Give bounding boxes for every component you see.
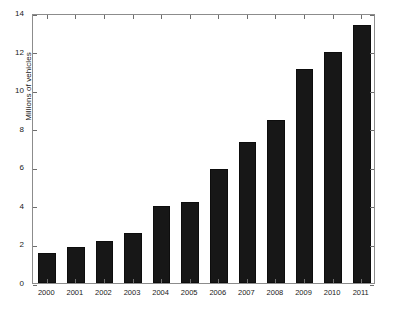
y-tick-0 [33,285,37,286]
y-tick-right-6 [370,169,374,170]
x-tick-top-2008 [275,15,276,19]
y-tick-14 [33,15,37,16]
x-tick-label-2008: 2008 [267,288,284,297]
y-tick-label-4: 4 [20,203,24,211]
y-tick-label-6: 6 [20,164,24,172]
bar-2009 [296,69,314,283]
x-tick-2002 [104,279,105,283]
bar-2007 [239,142,257,283]
x-tick-2001 [75,279,76,283]
bar-2008 [267,120,285,283]
plot-inner [33,15,374,283]
y-tick-12 [33,53,37,54]
y-tick-label-10: 10 [15,87,24,95]
x-tick-2007 [247,279,248,283]
y-axis-tick-labels: 02468101214 [0,14,28,284]
bar-2004 [153,206,171,283]
x-tick-2003 [133,279,134,283]
x-tick-2008 [275,279,276,283]
x-tick-top-2010 [333,15,334,19]
x-tick-top-2009 [304,15,305,19]
x-tick-label-2003: 2003 [124,288,141,297]
y-tick-2 [33,246,37,247]
x-tick-top-2011 [361,15,362,19]
figure-canvas: Millions of vehicles 02468101214 2000200… [0,0,394,309]
x-tick-label-2004: 2004 [152,288,169,297]
x-tick-top-2006 [218,15,219,19]
y-tick-right-0 [370,285,374,286]
x-tick-label-2007: 2007 [238,288,255,297]
x-tick-top-2005 [190,15,191,19]
x-tick-2009 [304,279,305,283]
x-tick-label-2009: 2009 [295,288,312,297]
y-tick-label-14: 14 [15,10,24,18]
x-tick-top-2003 [133,15,134,19]
y-tick-right-8 [370,130,374,131]
x-tick-top-2001 [75,15,76,19]
bar-2011 [353,25,371,283]
x-tick-2010 [333,279,334,283]
y-tick-right-14 [370,15,374,16]
x-tick-label-2002: 2002 [95,288,112,297]
x-axis-tick-labels: 2000200120022003200420052006200720082009… [32,288,375,302]
x-tick-label-2000: 2000 [38,288,55,297]
y-tick-label-12: 12 [15,49,24,57]
x-tick-label-2011: 2011 [353,288,369,297]
bar-2010 [324,52,342,283]
x-tick-2011 [361,279,362,283]
bar-2003 [124,233,142,283]
y-tick-label-8: 8 [20,126,24,134]
y-tick-label-2: 2 [20,241,24,249]
y-tick-6 [33,169,37,170]
y-tick-right-4 [370,207,374,208]
x-tick-top-2007 [247,15,248,19]
y-tick-right-2 [370,246,374,247]
x-tick-label-2005: 2005 [181,288,198,297]
x-tick-top-2002 [104,15,105,19]
x-tick-label-2001: 2001 [67,288,84,297]
bar-2001 [67,247,85,283]
bar-2006 [210,169,228,283]
x-tick-2000 [47,279,48,283]
x-tick-2006 [218,279,219,283]
bar-2002 [96,241,114,283]
y-tick-10 [33,92,37,93]
x-tick-2005 [190,279,191,283]
plot-area [32,14,375,284]
y-tick-8 [33,130,37,131]
bar-2005 [181,202,199,283]
x-tick-top-2004 [161,15,162,19]
x-tick-label-2006: 2006 [209,288,226,297]
x-tick-label-2010: 2010 [324,288,341,297]
y-tick-label-0: 0 [20,280,24,288]
y-tick-right-10 [370,92,374,93]
x-tick-top-2000 [47,15,48,19]
y-tick-right-12 [370,53,374,54]
x-tick-2004 [161,279,162,283]
y-tick-4 [33,207,37,208]
